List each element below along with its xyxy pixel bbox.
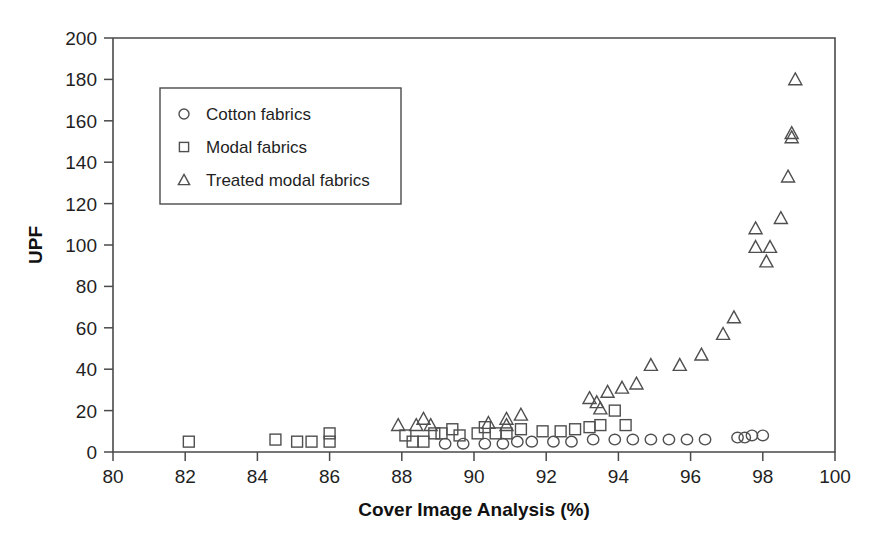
series-modal-fabrics	[183, 405, 631, 447]
data-point-square	[400, 430, 411, 441]
data-point-square	[555, 426, 566, 437]
data-point-triangle	[785, 131, 798, 143]
data-point-square	[609, 405, 620, 416]
x-axis-tick-label: 100	[819, 466, 851, 487]
data-point-circle	[497, 438, 508, 449]
data-point-circle	[663, 434, 674, 445]
data-point-triangle	[717, 328, 730, 340]
y-axis-tick-label: 120	[65, 194, 97, 215]
data-point-triangle	[782, 170, 795, 182]
data-point-square	[584, 422, 595, 433]
x-axis-title: Cover Image Analysis (%)	[358, 499, 590, 520]
data-point-square	[429, 428, 440, 439]
data-point-square	[292, 436, 303, 447]
data-point-square	[306, 436, 317, 447]
data-point-triangle	[789, 73, 802, 85]
y-axis-tick-label: 60	[76, 318, 97, 339]
y-axis-tick-label: 140	[65, 152, 97, 173]
data-point-triangle	[482, 417, 495, 429]
data-point-square	[324, 436, 335, 447]
data-point-circle	[587, 434, 598, 445]
y-axis-tick-label: 0	[86, 442, 97, 463]
legend-entry-label: Modal fabrics	[206, 138, 307, 157]
data-point-triangle	[616, 381, 629, 393]
data-point-triangle	[514, 408, 527, 420]
data-point-square	[515, 424, 526, 435]
x-axis-tick-label: 88	[391, 466, 412, 487]
data-point-circle	[457, 438, 468, 449]
y-axis-tick-label: 200	[65, 28, 97, 49]
data-point-triangle	[695, 348, 708, 360]
data-point-triangle	[774, 212, 787, 224]
data-point-circle	[681, 434, 692, 445]
data-point-square	[620, 420, 631, 431]
x-axis-tick-label: 86	[319, 466, 340, 487]
data-point-square	[183, 436, 194, 447]
data-point-circle	[566, 436, 577, 447]
data-point-circle	[699, 434, 710, 445]
y-axis-tick-label: 160	[65, 111, 97, 132]
data-point-circle	[439, 438, 450, 449]
data-point-square	[447, 424, 458, 435]
data-point-square	[490, 428, 501, 439]
y-axis-tick-label: 180	[65, 69, 97, 90]
chart-figure: 0204060801001201401601802008082848688909…	[0, 0, 875, 547]
legend-entry-label: Treated modal fabrics	[206, 171, 370, 190]
data-point-triangle	[630, 377, 643, 389]
data-point-square	[270, 434, 281, 445]
data-point-circle	[479, 438, 490, 449]
y-axis-tick-label: 100	[65, 235, 97, 256]
data-point-circle	[757, 430, 768, 441]
y-axis-tick-label: 40	[76, 359, 97, 380]
data-point-triangle	[764, 241, 777, 253]
data-point-triangle	[727, 311, 740, 323]
scatter-plot-canvas: 0204060801001201401601802008082848688909…	[0, 0, 875, 547]
data-point-square	[324, 428, 335, 439]
y-axis-title: UPF	[25, 226, 46, 264]
data-point-circle	[548, 436, 559, 447]
data-point-triangle	[673, 359, 686, 371]
data-point-square	[537, 426, 548, 437]
data-point-triangle	[749, 241, 762, 253]
x-axis-tick-label: 98	[752, 466, 773, 487]
data-point-circle	[739, 432, 750, 443]
data-point-triangle	[601, 385, 614, 397]
x-axis-tick-label: 90	[463, 466, 484, 487]
data-point-triangle	[760, 255, 773, 267]
y-axis-tick-label: 20	[76, 401, 97, 422]
data-point-circle	[645, 434, 656, 445]
data-point-circle	[746, 430, 757, 441]
data-point-triangle	[392, 419, 405, 431]
data-point-square	[501, 428, 512, 439]
y-axis-tick-label: 80	[76, 276, 97, 297]
data-point-circle	[609, 434, 620, 445]
data-point-triangle	[749, 222, 762, 234]
x-axis-tick-label: 92	[536, 466, 557, 487]
data-point-square	[418, 436, 429, 447]
x-axis-tick-label: 94	[608, 466, 630, 487]
data-point-square	[472, 428, 483, 439]
data-point-circle	[512, 436, 523, 447]
x-axis-tick-label: 80	[102, 466, 123, 487]
x-axis-tick-label: 96	[680, 466, 701, 487]
data-point-triangle	[785, 127, 798, 139]
data-point-square	[595, 420, 606, 431]
data-point-square	[570, 424, 581, 435]
data-point-square	[407, 436, 418, 447]
x-axis-tick-label: 84	[247, 466, 269, 487]
data-point-circle	[526, 436, 537, 447]
data-point-square	[436, 428, 447, 439]
legend-entry-label: Cotton fabrics	[206, 105, 311, 124]
x-axis-tick-label: 82	[175, 466, 196, 487]
data-point-circle	[627, 434, 638, 445]
series-treated-modal-fabrics	[392, 73, 802, 431]
data-point-triangle	[644, 359, 657, 371]
